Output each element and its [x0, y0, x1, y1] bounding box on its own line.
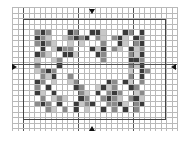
grid-line-vertical [177, 7, 178, 131]
top-center-arrow-icon [89, 9, 95, 14]
pattern-boundary-frame [23, 19, 166, 120]
grid-line-horizontal [12, 7, 177, 8]
cross-stitch-pattern-grid [12, 7, 177, 131]
grid-line-horizontal [12, 123, 177, 124]
left-center-arrow-icon [12, 64, 17, 70]
right-center-arrow-icon [171, 64, 176, 70]
bottom-center-arrow-icon [89, 126, 95, 131]
